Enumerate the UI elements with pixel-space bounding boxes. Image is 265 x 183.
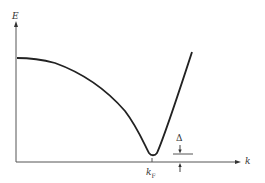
- fermi-wavevector-label: kF: [146, 168, 156, 179]
- gap-down-arrow-icon: [178, 150, 181, 154]
- dispersion-curve: [17, 52, 192, 155]
- gap-label: Δ: [176, 134, 183, 143]
- y-axis-label: E: [12, 12, 19, 21]
- diagram-canvas: [0, 0, 265, 183]
- gap-up-arrow-icon: [178, 163, 181, 167]
- y-axis-arrow-icon: [14, 21, 18, 27]
- x-axis-arrow-icon: [235, 160, 241, 164]
- kf-subscript: F: [151, 172, 155, 179]
- x-axis-label: k: [245, 157, 250, 166]
